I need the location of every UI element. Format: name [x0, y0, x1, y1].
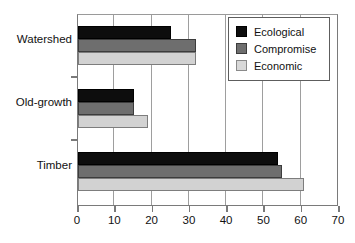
legend-item-ecological: Ecological: [236, 23, 323, 40]
legend-item-compromise: Compromise: [236, 40, 323, 57]
x-axis-tick-20: [152, 206, 154, 212]
legend-label-compromise: Compromise: [254, 43, 316, 55]
bar-old-growth-ecological: [78, 89, 134, 102]
x-axis-tick-label-10: 10: [99, 214, 129, 227]
y-axis-label-timber: Timber: [37, 159, 72, 172]
x-axis-tick-label-20: 20: [137, 214, 167, 227]
y-axis-label-timber-text: Timber: [37, 159, 72, 171]
x-axis-tick-label-60: 60: [286, 214, 316, 227]
y-axis-tick-old-growth-boundary: [71, 139, 77, 141]
x-axis-tick-label-0: 0: [62, 214, 92, 227]
y-axis-label-old-growth-text: Old-growth: [16, 96, 72, 108]
x-axis-tick-70: [338, 206, 340, 212]
y-axis-label-old-growth: Old-growth: [16, 96, 72, 109]
x-axis-tick-label-30: 30: [174, 214, 204, 227]
x-axis-tick-60: [301, 206, 303, 212]
legend-swatch-economic-icon: [236, 60, 247, 71]
bar-watershed-compromise: [78, 39, 196, 52]
x-axis-tick-50: [263, 206, 265, 212]
bar-timber-compromise: [78, 165, 282, 178]
x-axis-tick-0: [77, 206, 79, 212]
x-axis-tick-10: [114, 206, 116, 212]
legend-label-economic: Economic: [254, 60, 302, 72]
y-axis-tick-watershed-boundary: [71, 76, 77, 78]
x-axis-tick-label-50: 50: [248, 214, 278, 227]
x-axis-tick-30: [189, 206, 191, 212]
y-axis-label-watershed: Watershed: [17, 33, 72, 46]
legend-item-economic: Economic: [236, 57, 323, 74]
legend-swatch-ecological-icon: [236, 26, 247, 37]
y-axis-label-watershed-text: Watershed: [17, 33, 72, 45]
bar-timber-ecological: [78, 152, 278, 165]
legend: Ecological Compromise Economic: [228, 17, 330, 81]
legend-label-ecological: Ecological: [254, 26, 304, 38]
bar-old-growth-economic: [78, 115, 148, 128]
x-axis-tick-label-70: 70: [323, 214, 353, 227]
bar-chart: Watershed Old-growth Timber 0 10 20 30 4…: [0, 0, 355, 243]
bar-watershed-ecological: [78, 26, 171, 39]
bar-old-growth-compromise: [78, 102, 134, 115]
x-axis-tick-label-40: 40: [211, 214, 241, 227]
bar-watershed-economic: [78, 52, 196, 65]
bar-timber-economic: [78, 178, 304, 191]
legend-swatch-compromise-icon: [236, 43, 247, 54]
x-axis-tick-40: [226, 206, 228, 212]
